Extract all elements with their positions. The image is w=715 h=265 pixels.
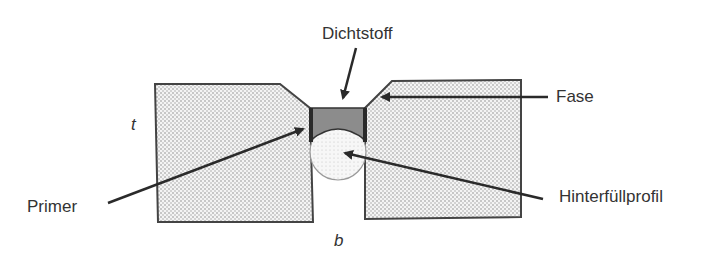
backer-rod-label: Hinterfüllprofil [559, 187, 663, 207]
sealant-label: Dichtstoff [322, 24, 393, 44]
primer-left [309, 108, 313, 142]
sealant-arrow [343, 48, 356, 98]
primer-label: Primer [27, 197, 77, 217]
primer-right [363, 108, 367, 142]
thickness-label: t [131, 115, 136, 135]
width-label: b [334, 231, 343, 251]
left-substrate-block [155, 84, 313, 222]
chamfer-label: Fase [556, 87, 594, 107]
right-substrate-block [365, 80, 521, 219]
